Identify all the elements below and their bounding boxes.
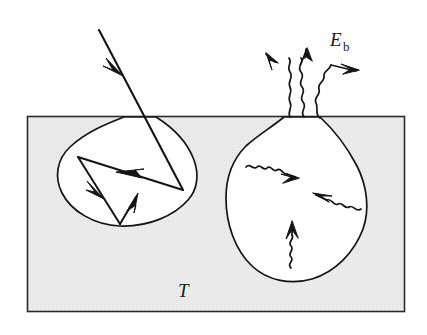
incident-ray-arrowhead — [103, 58, 123, 76]
emitted-ray-left-arrowhead — [266, 53, 278, 70]
emitted-ray-center-arrowhead — [300, 48, 312, 65]
emitted-ray-right-arrowhead — [341, 64, 359, 74]
emitted-ray-center-wave — [299, 58, 304, 117]
emitted-rays-group — [266, 48, 359, 118]
emitted-ray-left-wave — [289, 58, 292, 117]
emitted-ray-right-wave — [315, 65, 331, 118]
emissive-power-label-subscript: b — [343, 39, 350, 54]
cavity-radiation-figure: E b T — [0, 0, 427, 335]
temperature-label: T — [178, 280, 190, 301]
diagram-canvas: E b T — [0, 0, 427, 335]
emissive-power-label-base: E — [329, 29, 342, 50]
